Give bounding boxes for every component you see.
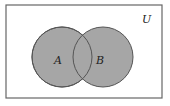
set-b-label: B <box>95 54 104 67</box>
set-a-label: A <box>53 54 62 67</box>
universe-label: U <box>142 13 152 26</box>
venn-diagram: A B U <box>0 0 170 106</box>
